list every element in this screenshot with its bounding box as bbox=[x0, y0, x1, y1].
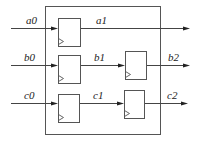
arrowhead-icon bbox=[181, 102, 188, 106]
flip-flop-c2 bbox=[125, 91, 145, 119]
signal-label-a1: a1 bbox=[96, 14, 107, 26]
signal-label-c0: c0 bbox=[24, 89, 35, 101]
arrowhead-icon bbox=[51, 64, 58, 68]
wire-c1 bbox=[79, 102, 124, 106]
arrowhead-icon bbox=[117, 102, 124, 106]
arrowhead-icon bbox=[118, 64, 125, 68]
signal-label-b1: b1 bbox=[94, 51, 105, 63]
wire-b0 bbox=[11, 64, 58, 68]
register-pipeline-diagram: a0a1b0b1b2c0c1c2 bbox=[0, 0, 198, 144]
flip-flop-b1 bbox=[59, 56, 81, 84]
arrowhead-icon bbox=[51, 27, 58, 31]
flip-flop-c1 bbox=[59, 95, 80, 123]
flip-flop-b2 bbox=[126, 52, 147, 80]
arrowhead-icon bbox=[183, 27, 190, 31]
wire-b2 bbox=[146, 64, 190, 68]
signal-label-b0: b0 bbox=[24, 51, 36, 63]
arrowhead-icon bbox=[51, 102, 58, 106]
wire-c0 bbox=[11, 102, 58, 106]
wire-c2 bbox=[144, 102, 188, 106]
signal-label-a0: a0 bbox=[26, 14, 38, 26]
wire-a0 bbox=[11, 27, 58, 31]
wire-a1 bbox=[80, 27, 190, 31]
wire-b1 bbox=[80, 64, 125, 68]
signal-label-c1: c1 bbox=[93, 89, 103, 101]
signal-label-c2: c2 bbox=[167, 89, 178, 101]
signal-label-b2: b2 bbox=[168, 51, 180, 63]
flip-flop-a1 bbox=[59, 19, 81, 47]
arrowhead-icon bbox=[183, 64, 190, 68]
